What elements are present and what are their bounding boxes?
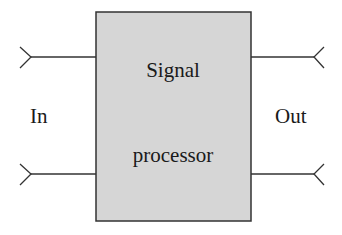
- input-chevron-icon: [20, 164, 31, 185]
- output-chevron-icon: [314, 164, 324, 185]
- output-chevron-icon: [314, 47, 324, 68]
- block-label-line1: Signal: [146, 58, 200, 82]
- output-terminal-bottom: [251, 164, 324, 185]
- input-chevron-icon: [20, 47, 31, 68]
- block-label-line2: processor: [133, 143, 213, 167]
- processor-block: [96, 12, 251, 221]
- input-terminal-bottom: [20, 164, 96, 185]
- input-terminal-top: [20, 47, 96, 68]
- signal-processor-diagram: Signal processor In Out: [0, 0, 342, 235]
- output-terminal-top: [251, 47, 324, 68]
- output-label: Out: [275, 104, 307, 128]
- input-label: In: [30, 104, 48, 128]
